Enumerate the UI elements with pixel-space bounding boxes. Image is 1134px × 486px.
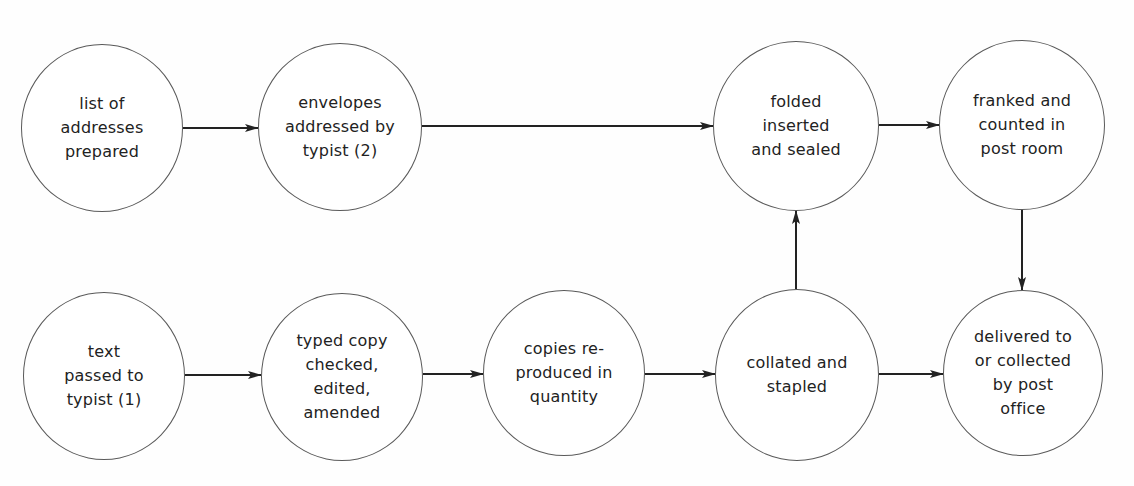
node-text-passed-to-typist: text passed to typist (1) — [23, 292, 185, 460]
node-label: typed copy checked, edited, amended — [296, 329, 387, 425]
flowchart-canvas: list of addresses prepared envelopes add… — [0, 0, 1134, 486]
node-label: delivered to or collected by post office — [974, 325, 1072, 421]
node-list-of-addresses: list of addresses prepared — [21, 44, 183, 212]
node-label: copies re- produced in quantity — [515, 337, 612, 409]
node-folded-inserted-sealed: folded inserted and sealed — [713, 41, 879, 211]
node-label: folded inserted and sealed — [751, 90, 841, 162]
node-label: envelopes addressed by typist (2) — [285, 91, 395, 163]
node-label: collated and stapled — [746, 351, 847, 399]
node-label: franked and counted in post room — [973, 89, 1071, 161]
node-label: text passed to typist (1) — [64, 340, 144, 412]
node-delivered-to-post-office: delivered to or collected by post office — [943, 290, 1103, 456]
node-collated-stapled: collated and stapled — [715, 289, 879, 461]
node-label: list of addresses prepared — [61, 92, 144, 164]
node-typed-copy-checked: typed copy checked, edited, amended — [261, 293, 423, 461]
node-copies-reproduced: copies re- produced in quantity — [483, 290, 645, 456]
node-envelopes-addressed: envelopes addressed by typist (2) — [258, 43, 422, 211]
node-franked-counted: franked and counted in post room — [939, 40, 1105, 210]
